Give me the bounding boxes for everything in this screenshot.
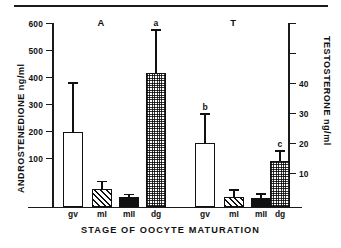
plot-area: gvmImIIadgbgvmImIIcdg (0, 0, 341, 248)
x-axis-category-label: mI (88, 209, 116, 219)
error-bar (200, 113, 210, 143)
bar-t-mi (224, 197, 244, 207)
error-bar (275, 150, 285, 160)
bar-a-mii (119, 197, 139, 206)
error-bar-stem (72, 82, 74, 132)
error-bar (68, 82, 78, 132)
bar-t-mii (251, 198, 271, 207)
x-axis-category-label: dg (142, 209, 170, 219)
bar-t-dg (270, 161, 290, 207)
bar-significance-letter: b (193, 102, 217, 112)
x-axis-category-label: gv (59, 209, 87, 219)
x-axis-category-label: gv (191, 209, 219, 219)
error-bar-stem (204, 113, 206, 143)
bar-significance-letter: c (268, 139, 292, 149)
error-bar-stem (101, 181, 103, 189)
error-bar (229, 189, 239, 197)
error-bar-stem (233, 189, 235, 197)
error-bar (97, 181, 107, 189)
error-bar-stem (155, 29, 157, 73)
bar-a-dg (146, 73, 166, 207)
figure-canvas: 600 500 400 300 200 100 40 30 20 10 ANDR… (0, 0, 341, 248)
x-axis-category-label: dg (266, 209, 294, 219)
bar-significance-letter: a (144, 18, 168, 28)
error-bar-stem (279, 150, 281, 160)
error-bar (151, 29, 161, 73)
bar-a-mi (92, 189, 112, 207)
x-axis-category-label: mI (220, 209, 248, 219)
bar-t-gv (195, 143, 215, 206)
x-axis-category-label: mII (115, 209, 143, 219)
bar-a-gv (63, 132, 83, 206)
